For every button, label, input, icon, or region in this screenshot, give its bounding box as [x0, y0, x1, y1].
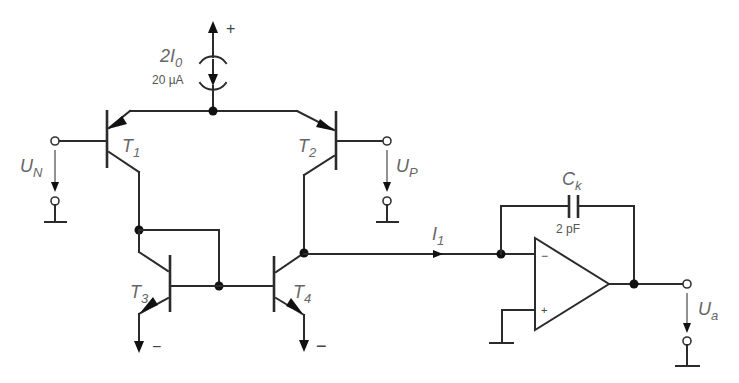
svg-text:Ck: Ck: [562, 169, 583, 193]
current-i1-arrow-icon: [433, 250, 443, 258]
supply-plus-sign: +: [226, 20, 235, 37]
capacitor-ck: Ck 2 pF: [501, 169, 634, 284]
output-ua: Ua: [676, 280, 718, 366]
ua-terminal[interactable]: [683, 280, 691, 288]
current-source-label: 2I0: [159, 46, 183, 70]
transistor-t1: T1: [60, 110, 140, 230]
input-un: UN: [20, 137, 66, 222]
input-up: UP: [377, 137, 418, 222]
current-direction-icon: [208, 74, 218, 86]
current-source: + 2I0 20 µA: [152, 20, 235, 111]
svg-text:+: +: [541, 304, 547, 316]
svg-text:T2: T2: [298, 136, 317, 160]
up-terminal[interactable]: [383, 137, 391, 145]
circuit-diagram: + 2I0 20 µA T1 UN T2: [0, 0, 739, 383]
up-label: UP: [396, 156, 418, 180]
svg-text:T4: T4: [293, 282, 311, 306]
svg-text:−: −: [152, 338, 161, 355]
supply-arrow-icon: [208, 21, 218, 33]
svg-text:T3: T3: [130, 282, 149, 306]
svg-text:2 pF: 2 pF: [556, 222, 580, 236]
svg-text:−: −: [541, 249, 548, 263]
ua-label: Ua: [698, 299, 718, 323]
un-label: UN: [20, 156, 43, 180]
transistor-t4: − T4: [274, 249, 327, 357]
un-terminal[interactable]: [51, 137, 59, 145]
svg-text:T1: T1: [122, 136, 140, 160]
transistor-t3: − T3: [130, 230, 170, 355]
current-i1-label: I1: [432, 224, 444, 248]
svg-text:−: −: [316, 336, 327, 356]
transistor-t2: T2: [297, 111, 383, 253]
current-source-value: 20 µA: [152, 73, 184, 87]
